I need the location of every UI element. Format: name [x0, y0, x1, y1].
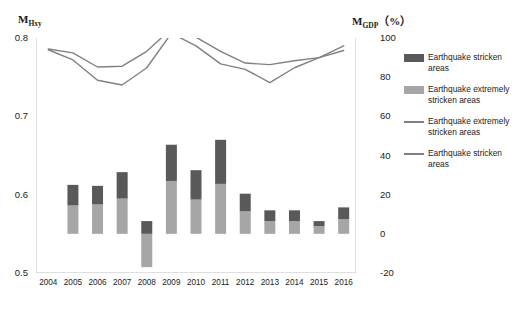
legend-swatch-line-icon [404, 121, 424, 123]
bar-light-2006 [92, 204, 103, 233]
left-axis-title: MHxy [18, 13, 42, 28]
bar-dark-2011 [215, 140, 226, 184]
left-tick-0.7: 0.7 [2, 110, 28, 121]
legend-swatch-bar-icon [404, 86, 424, 94]
bar-light-2016 [338, 219, 349, 234]
bar-dark-2007 [117, 172, 128, 198]
legend-item-1[interactable]: Earthquake extremely stricken areas [404, 84, 516, 105]
left-tick-0.5: 0.5 [2, 267, 28, 278]
bar-dark-2012 [240, 194, 251, 212]
bar-light-2007 [117, 199, 128, 234]
bar-light-2005 [67, 205, 78, 233]
chart-svg [36, 38, 356, 273]
legend-swatch-bar-icon [404, 54, 424, 62]
legend-label: Earthquake stricken areas [428, 148, 516, 169]
legend-item-3[interactable]: Earthquake stricken areas [404, 148, 516, 169]
bar-dark-2014 [289, 210, 300, 221]
legend-label: Earthquake stricken areas [428, 52, 516, 73]
bar-dark-2005 [67, 185, 78, 206]
bar-light-2010 [191, 200, 202, 234]
legend-label: Earthquake extremely stricken areas [428, 84, 516, 105]
right-tick-80: 80 [380, 71, 406, 82]
right-tick-40: 40 [380, 150, 406, 161]
bar-light-2011 [215, 184, 226, 234]
plot-area [36, 38, 356, 273]
bar-light-2012 [240, 211, 251, 234]
bar-light-2013 [264, 221, 275, 234]
bar-dark-2006 [92, 186, 103, 205]
bar-dark-2009 [166, 145, 177, 181]
right-tick-20: 20 [380, 189, 406, 200]
right-tick-0: 0 [380, 228, 406, 239]
bar-dark-2010 [191, 170, 202, 199]
chart-legend: Earthquake stricken areasEarthquake extr… [404, 52, 516, 180]
left-tick-0.8: 0.8 [2, 32, 28, 43]
x-label-2016: 2016 [329, 278, 359, 287]
legend-item-2[interactable]: Earthquake extremely stricken areas [404, 116, 516, 137]
legend-label: Earthquake extremely stricken areas [428, 116, 516, 137]
bar-dark-2016 [338, 207, 349, 219]
bar-dark-2015 [314, 221, 325, 226]
line-series-1 [48, 38, 343, 67]
bar-light-2009 [166, 181, 177, 234]
right-tick-60: 60 [380, 110, 406, 121]
legend-swatch-line-icon [404, 153, 424, 155]
bar-dark-2013 [264, 210, 275, 221]
bar-light-2014 [289, 221, 300, 234]
bar-dark-2008 [141, 221, 152, 234]
left-tick-0.6: 0.6 [2, 189, 28, 200]
bar-light-2015 [314, 226, 325, 234]
right-tick-100: 100 [380, 32, 406, 43]
right-axis-title: MGDP（%） [352, 12, 411, 30]
line-series-0 [48, 38, 343, 85]
right-tick--20: -20 [380, 267, 406, 278]
bar-light-2008 [141, 234, 152, 267]
legend-item-0[interactable]: Earthquake stricken areas [404, 52, 516, 73]
